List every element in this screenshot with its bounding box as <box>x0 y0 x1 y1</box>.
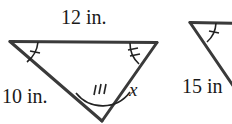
triangle-left-left-side <box>10 42 102 122</box>
angle-mark-right-top-left-single <box>207 23 219 42</box>
label-right-triangle-15in: 15 in <box>182 76 223 96</box>
label-right-side-x: x <box>129 80 137 99</box>
label-left-side-10in: 10 in. <box>2 86 48 106</box>
triangle-left-top-side <box>10 42 157 43</box>
triangle-right-top-side <box>190 23 232 24</box>
label-top-side-12in: 12 in. <box>61 7 107 27</box>
angle-mark-top-right-double <box>128 43 140 64</box>
geometry-figure: 12 in. 10 in. x 15 in <box>0 0 232 124</box>
